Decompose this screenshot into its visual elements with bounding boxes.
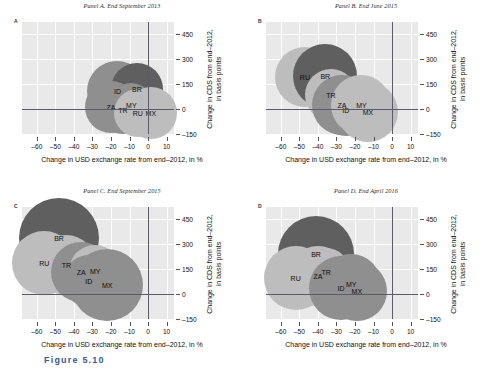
y-tick-mark xyxy=(176,59,180,60)
y-tick-mark xyxy=(420,34,424,35)
bubble-label-tr: TR xyxy=(326,91,335,98)
x-tick-label: –20 xyxy=(349,143,360,150)
panel-letter: B xyxy=(258,18,262,24)
x-tick-mark xyxy=(92,137,93,141)
x-axis-title: Change in USD exchange rate from end–201… xyxy=(244,156,488,163)
gridline-vertical xyxy=(74,22,75,134)
y-tick-label: 300 xyxy=(426,55,437,62)
y-tick-mark xyxy=(176,84,180,85)
plot-area: BRRUZATRIDMYMX xyxy=(266,207,418,319)
x-tick-mark xyxy=(37,322,38,326)
x-tick-mark xyxy=(111,322,112,326)
y-axis-title-line2: in basis points xyxy=(215,16,224,142)
y-axis-title-line2: in basis points xyxy=(459,201,468,327)
x-tick-mark xyxy=(148,137,149,141)
x-tick-mark xyxy=(74,137,75,141)
y-tick-mark xyxy=(176,244,180,245)
y-tick-mark xyxy=(420,219,424,220)
x-tick-mark xyxy=(130,137,131,141)
x-tick-label: –60 xyxy=(275,328,286,335)
x-tick-label: –40 xyxy=(312,328,323,335)
x-tick-label: –60 xyxy=(275,143,286,150)
y-tick-label: –150 xyxy=(426,131,441,138)
bubble-label-id: ID xyxy=(338,285,345,292)
y-tick-label: 450 xyxy=(426,30,437,37)
x-tick-label: –50 xyxy=(50,328,61,335)
y-tick-mark xyxy=(176,294,180,295)
x-tick-mark xyxy=(299,322,300,326)
x-tick-label: –40 xyxy=(68,143,79,150)
x-tick-label: –10 xyxy=(368,328,379,335)
y-tick-mark xyxy=(176,219,180,220)
x-tick-label: 0 xyxy=(146,328,150,335)
y-axis-title: Change in CDS from end–2012,in basis poi… xyxy=(450,201,467,327)
x-tick-label: –30 xyxy=(87,143,98,150)
y-tick-mark xyxy=(420,134,424,135)
figure-bubble-chart-grid: Panel A. End September 2013AIDBRZATRMYRU… xyxy=(0,0,488,369)
x-tick-mark xyxy=(318,322,319,326)
panel-title: Panel A. End September 2013 xyxy=(0,2,244,9)
x-tick-mark xyxy=(392,322,393,326)
panel-letter: D xyxy=(258,203,262,209)
bubble-label-br: BR xyxy=(132,85,142,92)
y-axis-title-line1: Change in CDS from end–2012, xyxy=(206,16,215,142)
y-tick-label: 0 xyxy=(182,105,186,112)
x-tick-mark xyxy=(55,137,56,141)
bubble-label-ru: RU xyxy=(133,110,143,117)
x-tick-label: –30 xyxy=(331,143,342,150)
panel-b: Panel B. End June 2015BRUBRTRZAIDMYMX–60… xyxy=(244,0,488,184)
y-axis-title: Change in CDS from end–2012,in basis poi… xyxy=(450,16,467,142)
bubble-label-my: MY xyxy=(346,280,357,287)
bubble-label-my: MY xyxy=(90,268,101,275)
axis-zero-vertical xyxy=(392,22,393,134)
x-tick-mark xyxy=(167,322,168,326)
panel-title: Panel B. End June 2015 xyxy=(244,2,488,9)
x-tick-label: –60 xyxy=(31,328,42,335)
panel-letter: A xyxy=(14,18,18,24)
y-axis-title-line2: in basis points xyxy=(215,201,224,327)
x-tick-mark xyxy=(130,322,131,326)
y-tick-label: 150 xyxy=(426,80,437,87)
panel-letter: C xyxy=(14,203,18,209)
x-tick-label: –20 xyxy=(105,143,116,150)
x-tick-label: –10 xyxy=(368,143,379,150)
panel-a: Panel A. End September 2013AIDBRZATRMYRU… xyxy=(0,0,244,184)
y-tick-mark xyxy=(176,134,180,135)
y-tick-mark xyxy=(420,84,424,85)
x-tick-mark xyxy=(37,137,38,141)
panel-title: Panel D. End April 2016 xyxy=(244,187,488,194)
x-tick-label: 10 xyxy=(407,143,414,150)
bubble-label-tr: TR xyxy=(322,269,331,276)
x-tick-mark xyxy=(392,137,393,141)
y-tick-label: 300 xyxy=(182,55,193,62)
y-tick-mark xyxy=(420,319,424,320)
gridline-horizontal xyxy=(22,59,174,60)
axis-zero-horizontal xyxy=(22,109,174,110)
panel-c: Panel C. End September 2015CBRRUTRZAMYID… xyxy=(0,185,244,369)
gridline-vertical xyxy=(167,207,168,319)
y-tick-label: 150 xyxy=(182,80,193,87)
bubble-label-my: MY xyxy=(126,102,137,109)
x-axis-title: Change in USD exchange rate from end–201… xyxy=(0,156,244,163)
axis-zero-horizontal xyxy=(266,294,418,295)
x-tick-mark xyxy=(374,137,375,141)
x-tick-label: –10 xyxy=(124,328,135,335)
y-tick-label: 0 xyxy=(426,105,430,112)
y-tick-label: 300 xyxy=(426,240,437,247)
x-tick-mark xyxy=(336,322,337,326)
plot-area: RUBRTRZAIDMYMX xyxy=(266,22,418,134)
y-tick-mark xyxy=(176,319,180,320)
gridline-vertical xyxy=(411,22,412,134)
bubble-label-my: MY xyxy=(356,101,367,108)
gridline-vertical xyxy=(55,22,56,134)
y-axis-title: Change in CDS from end–2012,in basis poi… xyxy=(206,16,223,142)
x-axis-title: Change in USD exchange rate from end–201… xyxy=(0,341,244,348)
plot-area: IDBRZATRMYRUMX xyxy=(22,22,174,134)
x-tick-mark xyxy=(355,322,356,326)
bubble-label-id: ID xyxy=(85,278,92,285)
x-tick-label: –30 xyxy=(331,328,342,335)
bubble-label-br: BR xyxy=(54,234,64,241)
bubble-label-br: BR xyxy=(311,250,321,257)
y-tick-label: 0 xyxy=(426,290,430,297)
x-tick-label: –60 xyxy=(31,143,42,150)
